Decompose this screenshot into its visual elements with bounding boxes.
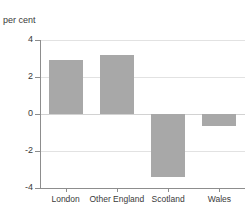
y-tick-mark-4 xyxy=(35,40,40,41)
x-tick-mark-other-england xyxy=(117,188,118,192)
y-tick-mark-0 xyxy=(35,114,40,115)
x-tick-mark-london xyxy=(66,188,67,192)
x-category-label-scotland: Scotland xyxy=(152,194,185,204)
bar-chart-figure: in major regions of UK per cent 420-2-4 … xyxy=(0,0,248,208)
y-axis-line xyxy=(40,40,41,189)
bar-london xyxy=(49,60,83,114)
y-tick-label-0: 0 xyxy=(7,108,33,118)
gridline-4 xyxy=(40,40,245,41)
x-tick-mark-wales xyxy=(219,188,220,192)
y-tick-label-neg4: -4 xyxy=(7,182,33,192)
x-category-label-wales: Wales xyxy=(208,194,231,204)
bar-scotland xyxy=(151,114,185,177)
x-axis-line xyxy=(40,188,245,189)
y-tick-label-2: 2 xyxy=(7,71,33,81)
chart-title: in major regions of UK xyxy=(0,0,248,1)
x-category-label-london: London xyxy=(51,194,79,204)
y-tick-label-4: 4 xyxy=(7,34,33,44)
y-tick-mark-neg2 xyxy=(35,151,40,152)
bar-other-england xyxy=(100,55,134,114)
y-tick-mark-neg4 xyxy=(35,188,40,189)
x-tick-mark-scotland xyxy=(168,188,169,192)
y-axis-tick-labels: 420-2-4 xyxy=(0,0,33,208)
y-tick-label-neg2: -2 xyxy=(7,145,33,155)
x-category-label-other-england: Other England xyxy=(89,194,144,204)
y-tick-mark-2 xyxy=(35,77,40,78)
gridline-neg2 xyxy=(40,151,245,152)
bar-wales xyxy=(202,114,236,126)
